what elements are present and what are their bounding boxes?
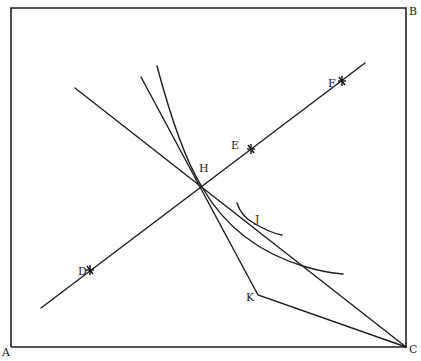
curve-j: [237, 203, 282, 235]
label-c: C: [409, 343, 417, 356]
label-f: F: [328, 77, 336, 90]
star-marker-e: [247, 144, 255, 154]
curve-through-h: [157, 66, 343, 274]
line-through-h-to-c: [75, 88, 406, 347]
label-d: D: [78, 265, 87, 278]
label-b: B: [409, 5, 417, 18]
geometry-diagram: A B C D E F H J K: [0, 0, 421, 361]
label-e: E: [231, 139, 239, 152]
label-k: K: [246, 291, 255, 304]
label-j: J: [254, 213, 259, 226]
label-a: A: [1, 346, 11, 359]
label-h: H: [199, 162, 209, 175]
frame-box: [11, 8, 406, 347]
line-h-k-c: [141, 77, 406, 347]
